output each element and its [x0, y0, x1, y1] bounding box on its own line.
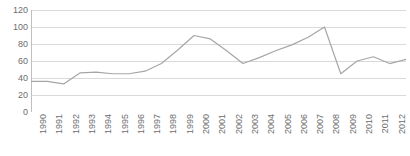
- plot-svg: [31, 10, 406, 112]
- data-series: [31, 27, 406, 84]
- x-axis-tick-label: 1992: [72, 114, 81, 154]
- plot-area: [31, 10, 406, 112]
- x-axis-tick-label: 1999: [186, 114, 195, 154]
- x-axis-tick-label: 2010: [365, 114, 374, 154]
- x-axis-tick-label: 1990: [39, 114, 48, 154]
- y-axis-tick-label: 100: [0, 23, 28, 32]
- x-axis-tick-label: 2000: [202, 114, 211, 154]
- y-axis-tick-label: 60: [0, 57, 28, 66]
- x-axis-tick-label: 1994: [104, 114, 113, 154]
- x-axis-tick-label: 2009: [349, 114, 358, 154]
- x-axis-tick-label: 1998: [169, 114, 178, 154]
- x-axis-tick-label: 2011: [381, 114, 390, 154]
- y-axis-tick-label: 120: [0, 6, 28, 15]
- y-axis-tick-label: 0: [0, 108, 28, 117]
- gridlines: [31, 10, 406, 95]
- x-axis-tick-label: 1996: [137, 114, 146, 154]
- x-axis-tick-label: 2007: [316, 114, 325, 154]
- x-axis-tick-label: 1995: [121, 114, 130, 154]
- x-axis-tick-label: 1997: [153, 114, 162, 154]
- x-axis-tick-label: 1993: [88, 114, 97, 154]
- x-axis-tick-label: 2005: [284, 114, 293, 154]
- x-axis-tick-label: 2001: [218, 114, 227, 154]
- x-axis-tick-label: 1991: [55, 114, 64, 154]
- y-axis-tick-label: 20: [0, 91, 28, 100]
- series-line: [31, 27, 406, 84]
- x-axis-tick-label: 2003: [251, 114, 260, 154]
- x-axis-tick-labels: 1990199119921993199419951996199719981999…: [31, 114, 406, 156]
- x-axis-tick-label: 2006: [300, 114, 309, 154]
- y-axis-tick-label: 40: [0, 74, 28, 83]
- x-axis-tick-label: 2002: [235, 114, 244, 154]
- y-axis-tick-label: 80: [0, 40, 28, 49]
- x-axis-tick-label: 2004: [267, 114, 276, 154]
- line-chart: 120 100 80 60 40 20 0 199019911992199319…: [0, 0, 410, 156]
- x-axis-tick-label: 2012: [398, 114, 407, 154]
- y-axis-tick-labels: 120 100 80 60 40 20 0: [0, 0, 28, 156]
- x-axis-tick-label: 2008: [332, 114, 341, 154]
